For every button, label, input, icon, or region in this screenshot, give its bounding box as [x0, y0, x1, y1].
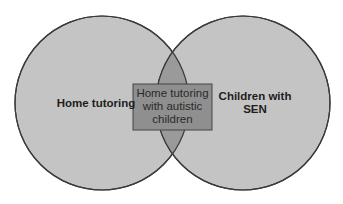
label-intersection: Home tutoring with autistic children: [133, 87, 212, 126]
label-intersection-line3: children: [133, 113, 212, 126]
label-home-tutoring: Home tutoring: [56, 97, 136, 110]
label-children-with-sen-line1: Children with: [212, 90, 298, 103]
label-children-with-sen-line2: SEN: [212, 103, 298, 116]
label-children-with-sen: Children with SEN: [212, 90, 298, 116]
label-intersection-line2: with autistic: [133, 100, 212, 113]
label-intersection-line1: Home tutoring: [133, 87, 212, 100]
